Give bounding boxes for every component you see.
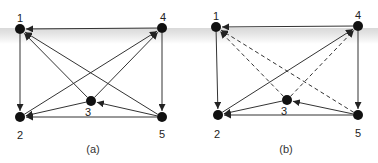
node-5 <box>157 112 167 122</box>
edge-5-to-3 <box>97 102 157 116</box>
node-label-1: 1 <box>17 12 23 24</box>
node-1 <box>15 24 25 34</box>
node-label-2: 2 <box>17 129 23 141</box>
panel-a: 12345(a) <box>15 11 167 155</box>
panel-b: 12345(b) <box>211 9 363 155</box>
node-2 <box>15 112 25 122</box>
node-label-4: 4 <box>160 11 166 23</box>
node-3 <box>282 95 292 105</box>
node-label-5: 5 <box>355 127 361 139</box>
node-label-2: 2 <box>214 128 220 140</box>
node-3 <box>86 96 96 106</box>
node-label-4: 4 <box>355 9 361 21</box>
edge-3-to-1 <box>220 31 283 96</box>
edge-5-to-3 <box>293 101 353 114</box>
graph-figure: 12345(a) 12345(b) <box>0 0 378 163</box>
node-4 <box>157 23 167 33</box>
node-4 <box>353 21 363 31</box>
edge-3-to-2 <box>224 101 282 114</box>
node-label-3: 3 <box>281 105 287 117</box>
edge-3-to-2 <box>26 102 86 116</box>
node-2 <box>213 110 223 120</box>
node-1 <box>211 22 221 32</box>
node-label-5: 5 <box>159 128 165 140</box>
node-5 <box>353 110 363 120</box>
panel-caption: (a) <box>86 143 99 155</box>
node-label-3: 3 <box>85 106 91 118</box>
node-label-1: 1 <box>213 10 219 22</box>
edge-4-to-1 <box>26 28 157 29</box>
edge-4-to-1 <box>222 26 353 27</box>
panel-caption: (b) <box>279 143 292 155</box>
edge-1-to-2 <box>216 32 218 109</box>
